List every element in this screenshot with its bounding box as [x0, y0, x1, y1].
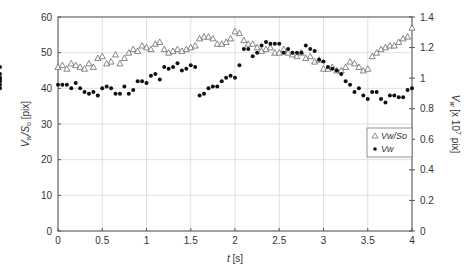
dot-marker-icon [373, 147, 377, 151]
y-left-tick-label: 40 [41, 83, 53, 94]
dot-marker [0, 72, 2, 76]
dot-marker [127, 92, 131, 96]
triangle-marker [68, 60, 74, 66]
dot-marker [215, 85, 219, 89]
dot-marker [100, 86, 104, 90]
dot-marker [392, 93, 396, 97]
dot-marker [229, 74, 233, 78]
dot-marker [122, 85, 126, 89]
dot-marker [326, 65, 330, 69]
legend-label-vw: Vw [381, 144, 394, 154]
triangle-marker [232, 28, 238, 34]
dot-marker [352, 90, 356, 94]
x-tick-label: 1 [144, 235, 150, 246]
dot-marker [171, 65, 175, 69]
dot-marker [379, 97, 383, 101]
dot-marker [397, 95, 401, 99]
dot-marker [383, 101, 387, 105]
dot-marker [87, 92, 91, 96]
dot-marker [180, 69, 184, 73]
dot-marker [69, 86, 73, 90]
triangle-marker [192, 43, 198, 49]
dot-marker [131, 88, 135, 92]
dot-marker [145, 81, 149, 85]
dot-marker [357, 86, 361, 90]
y-right-tick-label: 1.4 [420, 12, 434, 23]
dot-marker [0, 65, 2, 69]
dot-marker [118, 92, 122, 96]
triangle-marker [86, 60, 92, 66]
x-tick-label: 3 [321, 235, 327, 246]
triangle-marker [347, 59, 353, 65]
gridlines [58, 17, 412, 231]
dot-marker [291, 51, 295, 55]
y-left-tick-label: 10 [41, 190, 53, 201]
dot-marker [162, 65, 166, 69]
dot-marker [83, 90, 87, 94]
y-left-tick-label: 20 [41, 154, 53, 165]
dot-marker [330, 67, 334, 71]
dot-marker [361, 93, 365, 97]
triangle-marker [99, 53, 105, 59]
dot-marker [264, 40, 268, 44]
x-tick-label: 2.5 [272, 235, 286, 246]
dot-marker [220, 79, 224, 83]
y-left-tick-label: 30 [41, 119, 53, 130]
y-axis-right-title: Vw [x 107 pix] [449, 95, 462, 154]
dot-marker [242, 47, 246, 51]
dot-marker [317, 58, 321, 62]
dot-marker [202, 92, 206, 96]
dot-marker [158, 77, 162, 81]
chart: 00.511.522.533.54 0102030405060 00.20.40… [0, 0, 473, 272]
triangle-marker [343, 64, 349, 70]
triangle-marker [307, 53, 313, 59]
dot-marker [175, 61, 179, 65]
dot-marker [313, 49, 317, 53]
triangle-marker [409, 25, 415, 31]
legend: Vw/So Vw [367, 128, 412, 157]
dot-marker [255, 51, 259, 55]
dot-marker [149, 74, 153, 78]
x-tick-label: 2 [232, 235, 238, 246]
triangle-marker [157, 39, 163, 45]
dot-marker [370, 90, 374, 94]
dot-marker [237, 63, 241, 67]
dot-marker [406, 88, 410, 92]
triangle-marker [121, 55, 127, 61]
dot-marker [295, 51, 299, 55]
dot-marker [299, 51, 303, 55]
y-axis-right-ticks: 00.20.40.60.811.21.4 [409, 12, 434, 237]
dot-marker [388, 93, 392, 97]
y-right-tick-label: 1.2 [420, 42, 434, 53]
y-right-tick-label: 0.8 [420, 103, 434, 114]
dot-marker [105, 85, 109, 89]
dot-marker [198, 93, 202, 97]
dot-marker [0, 83, 2, 87]
triangle-marker [139, 43, 145, 49]
y-right-tick-label: 1 [420, 73, 426, 84]
dot-marker [375, 90, 379, 94]
triangle-marker [130, 46, 136, 52]
dot-marker [78, 86, 82, 90]
dot-marker [65, 83, 69, 87]
x-axis-title: t [s] [227, 253, 243, 264]
x-tick-label: 4 [409, 235, 415, 246]
y-left-tick-label: 50 [41, 47, 53, 58]
dot-marker [273, 42, 277, 46]
triangle-marker [117, 60, 123, 66]
dot-marker [344, 79, 348, 83]
y-axis-left-title: Vw/So [pix] [20, 101, 32, 147]
dot-marker [286, 47, 290, 51]
dot-marker [224, 76, 228, 80]
dot-marker [260, 44, 264, 48]
dot-marker [348, 83, 352, 87]
dot-marker [114, 92, 118, 96]
dot-marker [339, 72, 343, 76]
dot-marker [96, 93, 100, 97]
dot-marker [184, 67, 188, 71]
dot-marker [206, 86, 210, 90]
dot-marker [322, 60, 326, 64]
x-tick-label: 3.5 [361, 235, 375, 246]
dot-marker [246, 47, 250, 51]
triangle-marker [205, 34, 211, 40]
